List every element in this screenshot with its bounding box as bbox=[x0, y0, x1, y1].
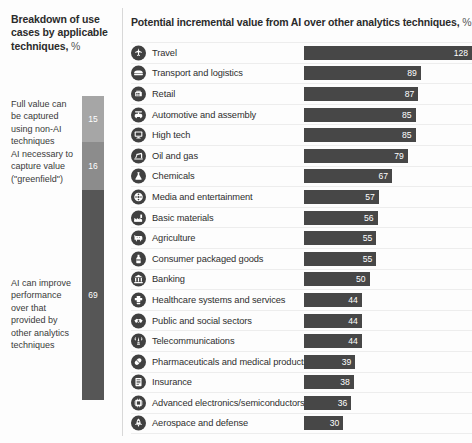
bar-value-label: 55 bbox=[363, 233, 373, 243]
incremental-value-panel: Potential incremental value from AI over… bbox=[131, 0, 472, 443]
breakdown-title-text: Breakdown of use cases by applicable tec… bbox=[11, 13, 108, 52]
bar-row-label: Transport and logistics bbox=[152, 68, 243, 78]
rocket-icon bbox=[131, 416, 146, 431]
stack-segment-value: 69 bbox=[82, 291, 104, 300]
health-cross-icon bbox=[131, 292, 146, 307]
bar: 55 bbox=[304, 231, 376, 245]
bar-row: Transport and logistics89 bbox=[131, 64, 472, 85]
bar: 44 bbox=[304, 314, 362, 328]
bar-track: 36 bbox=[304, 396, 472, 410]
bar-row: Banking50 bbox=[131, 270, 472, 291]
bar-row-label: Advanced electronics/semiconductors bbox=[152, 398, 305, 408]
bar: 30 bbox=[304, 416, 343, 430]
chart-title-unit: % bbox=[462, 16, 471, 28]
bar-row-label: Basic materials bbox=[152, 213, 214, 223]
bar-track: 67 bbox=[304, 169, 472, 183]
bar-track: 85 bbox=[304, 108, 472, 122]
bar-track: 55 bbox=[304, 231, 472, 245]
bar-value-label: 85 bbox=[402, 130, 412, 140]
bar-row: Insurance38 bbox=[131, 373, 472, 394]
bar-value-label: 44 bbox=[348, 316, 358, 326]
bar-value-label: 30 bbox=[330, 418, 340, 428]
bar-value-label: 56 bbox=[364, 213, 374, 223]
bar-row: Retail87 bbox=[131, 84, 472, 105]
bar-row: Advanced electronics/semiconductors36 bbox=[131, 393, 472, 414]
bar-row-label: Aerospace and defense bbox=[152, 418, 248, 428]
bar-value-label: 44 bbox=[348, 336, 358, 346]
bar-value-label: 38 bbox=[340, 377, 350, 387]
bar: 39 bbox=[304, 355, 355, 369]
bar-track: 55 bbox=[304, 252, 472, 266]
bar-row-label: Healthcare systems and services bbox=[152, 295, 285, 305]
film-reel-icon bbox=[131, 189, 146, 204]
bar-row: Agriculture55 bbox=[131, 228, 472, 249]
bar-row-label: Media and entertainment bbox=[152, 192, 253, 202]
bar-row-label: Insurance bbox=[152, 377, 192, 387]
bar: 55 bbox=[304, 252, 376, 266]
bar-rows: Travel128Transport and logistics89Retail… bbox=[131, 42, 472, 434]
bar-value-label: 50 bbox=[356, 274, 366, 284]
monitor-icon bbox=[131, 128, 146, 143]
breakdown-title-unit: % bbox=[71, 40, 80, 52]
bar-row-label: Telecommunications bbox=[152, 336, 234, 346]
bar-row-label: Pharmaceuticals and medical products bbox=[152, 357, 308, 367]
panel-divider bbox=[122, 8, 123, 436]
legend-label-non-ai: Full value can be captured using non-AI … bbox=[11, 98, 79, 148]
bottle-icon bbox=[131, 251, 146, 266]
bar-track: 44 bbox=[304, 334, 472, 348]
bar-value-label: 57 bbox=[365, 192, 375, 202]
bar: 89 bbox=[304, 66, 421, 80]
bar-track: 79 bbox=[304, 149, 472, 163]
bar-row-label: Banking bbox=[152, 274, 185, 284]
bar-row: Travel128 bbox=[131, 42, 472, 64]
bar-track: 39 bbox=[304, 355, 472, 369]
bar-value-label: 79 bbox=[394, 151, 404, 161]
bar-track: 85 bbox=[304, 128, 472, 142]
bar-row: High tech85 bbox=[131, 125, 472, 146]
bar-row: Pharmaceuticals and medical products39 bbox=[131, 352, 472, 373]
microchip-icon bbox=[131, 395, 146, 410]
bar-track: 44 bbox=[304, 293, 472, 307]
bar-track: 87 bbox=[304, 87, 472, 101]
bar-value-label: 85 bbox=[402, 110, 412, 120]
bar-row: Chemicals67 bbox=[131, 167, 472, 188]
bank-icon bbox=[131, 272, 146, 287]
bar-row: Automotive and assembly85 bbox=[131, 105, 472, 126]
bar-value-label: 128 bbox=[454, 48, 468, 58]
bar-row: Media and entertainment57 bbox=[131, 187, 472, 208]
bar-row: Healthcare systems and services44 bbox=[131, 290, 472, 311]
chart-title-text: Potential incremental value from AI over… bbox=[131, 16, 459, 28]
bar-track: 44 bbox=[304, 314, 472, 328]
legend-label-ai-improves: AI can improve performance over that pro… bbox=[11, 277, 79, 351]
handshake-icon bbox=[131, 313, 146, 328]
legend-label-greenfield: AI necessary to capture value ("greenfie… bbox=[11, 148, 79, 185]
stack-segment-ai-improves: 69 bbox=[82, 190, 104, 400]
bar-row-label: Public and social sectors bbox=[152, 316, 252, 326]
bar: 79 bbox=[304, 149, 408, 163]
bar-track: 50 bbox=[304, 272, 472, 286]
bar-row: Telecommunications44 bbox=[131, 331, 472, 352]
bar: 38 bbox=[304, 375, 354, 389]
cow-icon bbox=[131, 231, 146, 246]
oil-pump-icon bbox=[131, 148, 146, 163]
bar-row: Aerospace and defense30 bbox=[131, 414, 472, 435]
bar-row-label: High tech bbox=[152, 130, 190, 140]
bar: 44 bbox=[304, 293, 362, 307]
car-icon bbox=[131, 107, 146, 122]
bar-row-label: Chemicals bbox=[152, 171, 195, 181]
bar: 85 bbox=[304, 128, 416, 142]
bar: 128 bbox=[304, 46, 472, 60]
bar-track: 38 bbox=[304, 375, 472, 389]
bar-row-label: Agriculture bbox=[152, 233, 195, 243]
bar-track: 30 bbox=[304, 416, 472, 430]
stacked-bar: 151669 bbox=[82, 96, 104, 400]
bar-value-label: 87 bbox=[405, 89, 415, 99]
bar-value-label: 89 bbox=[407, 68, 417, 78]
bar: 57 bbox=[304, 190, 379, 204]
bar: 87 bbox=[304, 87, 418, 101]
bar-value-label: 55 bbox=[363, 254, 373, 264]
bar: 44 bbox=[304, 334, 362, 348]
chart-page: Breakdown of use cases by applicable tec… bbox=[0, 0, 472, 443]
antenna-tower-icon bbox=[131, 334, 146, 349]
breakdown-panel: Breakdown of use cases by applicable tec… bbox=[0, 0, 122, 443]
